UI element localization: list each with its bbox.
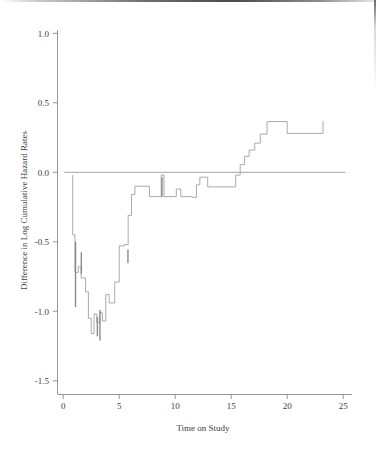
y-axis-ticks: 1.0 0.5 0.0 -0.5 -1.0 -1.5: [35, 29, 58, 387]
x-tick-label: 10: [171, 401, 181, 411]
x-tick-label: 20: [283, 401, 293, 411]
x-tick-label: 25: [339, 401, 349, 411]
x-tick-label: 15: [227, 401, 237, 411]
y-tick-label: 0.5: [38, 98, 50, 108]
y-tick-label: -1.5: [35, 376, 50, 386]
hazard-difference-chart: Difference in Log Cumulative Hazard Rate…: [0, 0, 376, 456]
y-tick-label: -0.5: [35, 237, 50, 247]
y-tick-label: 1.0: [38, 29, 50, 39]
x-axis-title: Time on Study: [176, 423, 230, 433]
x-tick-label: 0: [61, 401, 66, 411]
hazard-difference-step-curve: [73, 121, 323, 334]
figure-root: Difference in Log Cumulative Hazard Rate…: [0, 0, 376, 456]
y-tick-label: -1.0: [35, 307, 50, 317]
y-tick-label: 0.0: [38, 168, 50, 178]
y-axis-title: Difference in Log Cumulative Hazard Rate…: [19, 130, 29, 290]
x-tick-label: 5: [117, 401, 122, 411]
x-axis-ticks: 0 5 10 15 20 25: [61, 395, 348, 412]
